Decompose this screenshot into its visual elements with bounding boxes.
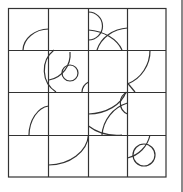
tile-arc xyxy=(23,29,49,50)
tile-arc xyxy=(128,135,151,158)
tile-arc xyxy=(89,126,123,135)
tile-arc xyxy=(89,12,103,40)
tile-circle xyxy=(62,65,78,81)
tile-arc xyxy=(82,82,89,92)
tile-arc xyxy=(102,103,128,135)
tile-arc xyxy=(49,52,70,80)
tile-arc xyxy=(128,50,151,84)
tile-arc xyxy=(128,83,136,92)
tile-puzzle-grid xyxy=(0,0,183,192)
tile-arc xyxy=(49,135,89,165)
tile-arc xyxy=(44,50,56,92)
window-edge xyxy=(181,0,183,192)
tile-arc xyxy=(89,30,123,50)
tile-arc xyxy=(29,106,49,135)
